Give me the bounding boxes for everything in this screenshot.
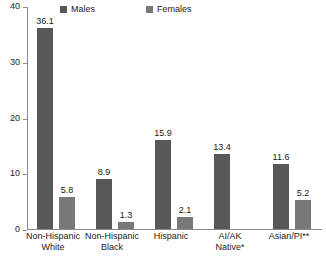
y-axis-tick-label: 30 xyxy=(10,57,20,68)
bar-males-0: 36.1 xyxy=(37,28,53,229)
category-label-4: Asian/PI** xyxy=(254,231,324,242)
bar-value-label: 5.8 xyxy=(61,185,74,195)
x-axis-category-labels: Non-HispanicWhiteNon-HispanicBlackHispan… xyxy=(27,231,322,263)
bar-value-label: 5.2 xyxy=(297,188,310,198)
bar-females-0: 5.8 xyxy=(59,197,75,229)
y-axis-tick-label: 40 xyxy=(10,1,20,12)
category-label-line1: AI/AK xyxy=(218,231,241,241)
bar-value-label: 36.1 xyxy=(36,16,54,26)
y-axis-tick: 30 xyxy=(23,63,27,64)
y-axis-tick-label: 10 xyxy=(10,168,20,179)
y-axis-tick: 20 xyxy=(23,119,27,120)
y-axis-tick: 10 xyxy=(23,174,27,175)
bar-males-4: 11.6 xyxy=(273,164,289,229)
bar-males-2: 15.9 xyxy=(155,140,171,229)
bar-value-label: 15.9 xyxy=(154,128,172,138)
bar-value-label: 2.1 xyxy=(179,205,192,215)
y-axis-line xyxy=(27,7,28,230)
bar-value-label: 13.4 xyxy=(213,142,231,152)
bar-males-3: 13.4 xyxy=(214,154,230,229)
bar-females-4: 5.2 xyxy=(295,200,311,229)
category-label-line1: Non-Hispanic xyxy=(85,231,139,241)
bar-value-label: 1.3 xyxy=(120,210,133,220)
category-label-line1: Non-Hispanic xyxy=(26,231,80,241)
category-label-line1: Asian/PI** xyxy=(269,231,310,241)
bar-males-1: 8.9 xyxy=(96,179,112,229)
bar-females-1: 1.3 xyxy=(118,222,134,229)
bar-value-label: 8.9 xyxy=(98,167,111,177)
bar-value-label: 11.6 xyxy=(273,152,290,162)
bar-females-2: 2.1 xyxy=(177,217,193,229)
category-label-line2: Native* xyxy=(195,242,265,253)
x-axis-line xyxy=(27,229,322,230)
category-label-line1: Hispanic xyxy=(154,231,189,241)
y-axis-tick-label: 20 xyxy=(10,113,20,124)
category-label-line2: Black xyxy=(77,242,147,253)
plot-area: 010203040 36.15.88.91.315.92.113.411.65.… xyxy=(27,7,322,230)
bar-chart: Males Females 010203040 36.15.88.91.315.… xyxy=(0,0,326,263)
y-axis-tick: 40 xyxy=(23,7,27,8)
